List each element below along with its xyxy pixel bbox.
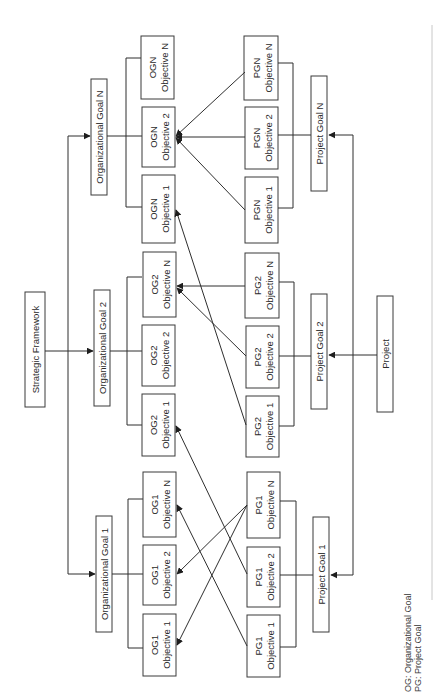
svg-text:PG2: PG2 [252,276,263,295]
project-goal-n-node[interactable]: Project Goal N [311,76,327,191]
svg-text:Objective N: Objective N [263,43,274,92]
pg2-objective-1-node[interactable]: PG2 Objective 1 [246,396,279,457]
project-goal-1-node[interactable]: Project Goal 1 [313,517,329,632]
org-goal-1-node[interactable]: Organizational Goal 1 [96,516,112,632]
svg-text:Objective 1: Objective 1 [264,403,275,451]
svg-text:Objective 1: Objective 1 [161,621,172,669]
svg-text:OG1: OG1 [149,565,160,585]
svg-text:OG1: OG1 [149,494,160,514]
svg-text:Organizational Goal N: Organizational Goal N [94,90,105,184]
ogn-objective-n-node[interactable]: OGN Objective N [141,36,174,99]
svg-text:PG1: PG1 [253,567,264,586]
svg-text:PG1: PG1 [253,636,264,655]
svg-text:Strategic Framework: Strategic Framework [30,305,41,393]
ogn-objective-1-node[interactable]: OGN Objective 1 [142,175,175,243]
svg-text:Objective 2: Objective 2 [160,113,171,161]
legend-og: OG: Organizational Goal [403,593,413,692]
pgn-objective-2-node[interactable]: PGN Objective 2 [245,107,278,169]
svg-text:Objective 2: Objective 2 [263,114,274,162]
org-goal-2-node[interactable]: Organizational Goal 2 [94,290,110,406]
project-connectors [329,135,377,575]
legend: OG: Organizational Goal PG: Project Goal [403,593,423,692]
project-goal-brackets [278,63,313,647]
org-goal-n-node[interactable]: Organizational Goal N [91,79,107,195]
svg-text:PG2: PG2 [252,347,263,366]
pgn-objective-1-node[interactable]: PGN Objective 1 [245,177,278,243]
framework-connectors [45,136,95,574]
strategic-framework-node[interactable]: Strategic Framework [25,292,45,407]
svg-text:OGN: OGN [147,57,158,79]
pgn-objective-n-node[interactable]: PGN Objective N [244,36,278,100]
svg-text:OG1: OG1 [149,635,160,655]
svg-text:Objective 2: Objective 2 [264,333,275,381]
svg-text:Objective N: Objective N [161,260,172,309]
og2-objective-n-node[interactable]: OG2 Objective N [143,252,176,317]
svg-text:Objective N: Objective N [161,480,172,529]
pg1-objective-1-node[interactable]: PG1 Objective 1 [247,615,280,677]
svg-text:PGN: PGN [251,200,262,221]
svg-text:OG2: OG2 [148,415,159,435]
svg-text:Organizational Goal 1: Organizational Goal 1 [99,528,110,620]
svg-text:Objective 2: Objective 2 [160,332,171,380]
svg-text:PG2: PG2 [252,417,263,436]
svg-text:OGN: OGN [148,126,159,148]
project-node[interactable]: Project [377,296,393,412]
svg-text:Project Goal 2: Project Goal 2 [314,321,325,381]
svg-text:Objective 1: Objective 1 [263,186,274,234]
svg-text:Objective 2: Objective 2 [265,553,276,601]
strategic-alignment-diagram: Strategic Framework Organizational Goal … [0,0,433,699]
svg-text:OG2: OG2 [148,345,159,365]
svg-text:Objective N: Objective N [265,480,276,529]
svg-text:Project Goal 1: Project Goal 1 [316,544,327,604]
svg-text:Objective 2: Objective 2 [161,551,172,599]
svg-text:PGN: PGN [251,128,262,149]
pg1-objective-n-node[interactable]: PG1 Objective N [247,472,280,538]
og2-objective-2-node[interactable]: OG2 Objective 2 [142,325,175,386]
svg-text:Objective N: Objective N [264,261,275,310]
svg-text:Objective 1: Objective 1 [160,401,171,449]
alignment-arrows [176,72,247,646]
svg-text:Objective N: Objective N [159,43,170,92]
og1-objective-2-node[interactable]: OG1 Objective 2 [143,545,176,605]
svg-text:Project: Project [380,339,391,369]
pg2-objective-n-node[interactable]: PG2 Objective N [245,253,279,318]
project-goal-2-node[interactable]: Project Goal 2 [311,294,327,409]
legend-pg: PG: Project Goal [413,624,423,692]
og1-objective-n-node[interactable]: OG1 Objective N [143,472,176,537]
og2-objective-1-node[interactable]: OG2 Objective 1 [142,394,175,456]
pg1-objective-2-node[interactable]: PG1 Objective 2 [247,547,280,607]
svg-text:Objective 1: Objective 1 [160,185,171,233]
og1-objective-1-node[interactable]: OG1 Objective 1 [143,614,176,676]
svg-text:OG2: OG2 [149,274,160,294]
svg-text:Objective 1: Objective 1 [265,622,276,670]
svg-text:Organizational Goal 2: Organizational Goal 2 [97,302,108,394]
svg-text:Project Goal N: Project Goal N [314,102,325,164]
svg-text:OGN: OGN [148,198,159,220]
ogn-objective-2-node[interactable]: OGN Objective 2 [142,107,175,167]
svg-text:PG1: PG1 [253,495,264,514]
pg2-objective-2-node[interactable]: PG2 Objective 2 [246,326,279,388]
svg-text:PGN: PGN [251,58,262,79]
